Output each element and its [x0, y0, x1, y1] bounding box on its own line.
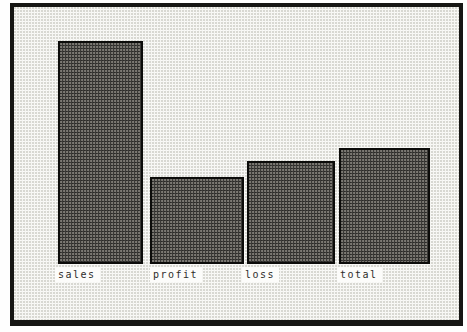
bar-loss: [247, 161, 335, 264]
bar-label-profit: profit: [150, 267, 202, 282]
bar-total: [339, 148, 430, 264]
bar-label-total: total: [337, 267, 382, 282]
chart-frame: sales profit loss total: [10, 3, 463, 326]
bar-chart-screenshot: sales profit loss total: [0, 0, 467, 332]
bar-sales: [58, 41, 143, 264]
bar-label-loss: loss: [242, 267, 279, 282]
bar-profit: [150, 177, 244, 264]
bar-label-sales: sales: [55, 267, 100, 282]
